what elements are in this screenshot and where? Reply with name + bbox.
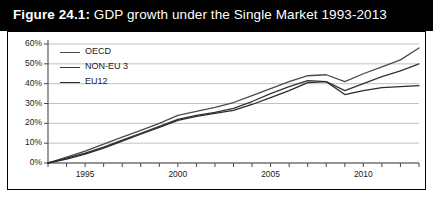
y-axis-ticks <box>44 44 48 163</box>
page-title: Figure 24.1: GDP growth under the Single… <box>13 7 387 22</box>
y-axis-tick-label: 60% <box>8 38 42 48</box>
chart-inner: 0%10%20%30%40%50%60% 1995200020052010 OE… <box>8 32 425 189</box>
y-axis-tick-label: 0% <box>8 157 42 167</box>
legend-line-swatch <box>60 82 80 83</box>
chart-plot-area: 0%10%20%30%40%50%60% 1995200020052010 OE… <box>7 31 426 190</box>
x-axis-tick-label: 2010 <box>343 169 383 179</box>
legend-item-label: EU12 <box>85 76 108 86</box>
x-axis-tick-label: 1995 <box>65 169 105 179</box>
y-axis-tick-label: 50% <box>8 58 42 68</box>
figure-title-bar: Figure 24.1: GDP growth under the Single… <box>0 0 433 31</box>
legend-line-swatch <box>60 67 80 68</box>
y-axis-tick-label: 30% <box>8 98 42 108</box>
legend-item-label: NON-EU 3 <box>85 61 128 71</box>
line-chart-svg <box>8 32 427 188</box>
x-axis-tick-label: 2005 <box>251 169 291 179</box>
y-axis-tick-label: 10% <box>8 137 42 147</box>
y-axis-tick-label: 20% <box>8 117 42 127</box>
legend-item-label: OECD <box>85 46 111 56</box>
x-axis-ticks <box>48 163 419 167</box>
legend-line-swatch <box>60 52 80 53</box>
figure-title-text: GDP growth under the Single Market 1993-… <box>90 7 387 22</box>
y-axis-tick-label: 40% <box>8 78 42 88</box>
x-axis-tick-label: 2000 <box>158 169 198 179</box>
figure-container: Figure 24.1: GDP growth under the Single… <box>0 0 433 197</box>
figure-number: Figure 24.1: <box>13 7 90 22</box>
